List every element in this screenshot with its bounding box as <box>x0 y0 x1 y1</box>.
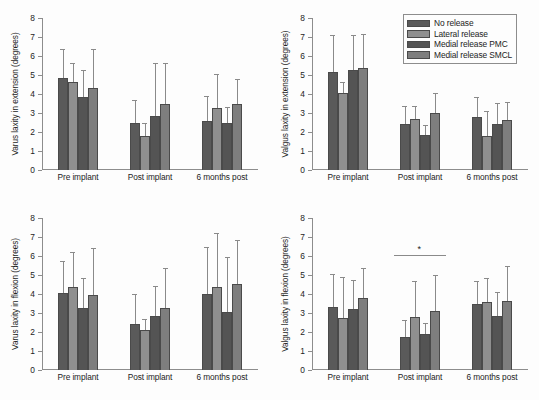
error-bar <box>135 100 136 124</box>
error-bar-cap <box>433 275 438 276</box>
bar <box>78 308 88 370</box>
y-axis-tick: 3 <box>38 313 42 314</box>
y-axis-tick-label: 0 <box>300 364 305 376</box>
error-bar-cap <box>330 274 335 275</box>
error-bar <box>507 266 508 301</box>
legend-item[interactable]: Lateral release <box>407 29 512 40</box>
bar <box>492 316 502 370</box>
figure-panel-grid: Varus laxity in extension (degrees)01234… <box>0 0 539 400</box>
y-axis-tick: 1 <box>308 151 312 152</box>
error-bar-cap <box>235 79 240 80</box>
error-bar-cap <box>81 70 86 71</box>
y-axis-tick: 3 <box>308 313 312 314</box>
error-bar-cap <box>423 323 428 324</box>
y-axis-tick: 8 <box>308 218 312 219</box>
bar <box>502 301 512 370</box>
y-axis-label: Varus laxity in extension (degrees) <box>10 10 24 178</box>
y-axis-tick-label: 8 <box>300 12 305 24</box>
y-axis-tick: 0 <box>38 170 42 171</box>
error-bar <box>353 35 354 70</box>
error-bar <box>135 294 136 323</box>
bar <box>502 120 512 170</box>
y-axis-tick-label: 1 <box>300 345 305 357</box>
legend: No releaseLateral releaseMedial release … <box>403 14 517 64</box>
legend-color-swatch <box>407 51 430 59</box>
x-axis-tick-label: Pre implant <box>42 372 114 382</box>
y-axis-tick-label: 5 <box>30 269 35 281</box>
error-bar-cap <box>70 63 75 64</box>
error-bar-cap <box>204 96 209 97</box>
bar <box>140 330 150 370</box>
bar <box>348 309 358 370</box>
error-bar-cap <box>474 281 479 282</box>
error-bar <box>405 106 406 123</box>
y-axis-tick-label: 4 <box>30 288 35 300</box>
error-bar-cap <box>60 261 65 262</box>
error-bar-cap <box>412 281 417 282</box>
y-axis-line <box>312 218 313 370</box>
y-axis-tick-label: 1 <box>300 145 305 157</box>
bar <box>140 136 150 170</box>
y-axis-tick-label: 4 <box>30 88 35 100</box>
y-axis-tick: 7 <box>308 37 312 38</box>
bar <box>410 317 420 370</box>
y-axis-tick: 8 <box>308 18 312 19</box>
bar <box>430 311 440 370</box>
error-bar <box>237 79 238 104</box>
error-bar-cap <box>351 35 356 36</box>
error-bar-cap <box>214 74 219 75</box>
legend-item[interactable]: No release <box>407 18 512 29</box>
bar <box>328 307 338 370</box>
y-axis-tick-label: 2 <box>30 326 35 338</box>
error-bar <box>477 97 478 118</box>
bar <box>202 294 212 370</box>
error-bar <box>237 240 238 284</box>
legend-item[interactable]: Medial release SMCL <box>407 50 512 61</box>
y-axis-label: Valgus laxity in flexion (degrees) <box>280 210 294 378</box>
y-axis-tick: 7 <box>38 237 42 238</box>
y-axis-tick: 8 <box>38 18 42 19</box>
plot-area: 012345678Pre implantPost implant6 months… <box>312 218 528 370</box>
x-axis-tick-label: Pre implant <box>312 172 384 182</box>
error-bar-cap <box>340 82 345 83</box>
y-axis-tick-label: 4 <box>300 88 305 100</box>
bar <box>328 72 338 170</box>
error-bar-cap <box>163 268 168 269</box>
x-axis-tick-label: 6 months post <box>186 172 258 182</box>
error-bar-cap <box>132 100 137 101</box>
error-bar-cap <box>505 266 510 267</box>
y-axis-tick: 5 <box>38 275 42 276</box>
error-bar <box>227 107 228 123</box>
x-axis-tick-label: 6 months post <box>456 372 528 382</box>
error-bar <box>73 63 74 82</box>
error-bar <box>343 82 344 93</box>
y-axis-tick-label: 0 <box>30 164 35 176</box>
y-axis-tick: 1 <box>308 351 312 352</box>
y-axis-tick: 0 <box>308 170 312 171</box>
y-axis-tick-label: 3 <box>30 307 35 319</box>
bar <box>472 117 482 170</box>
y-axis-line <box>312 18 313 170</box>
bar <box>420 334 430 370</box>
error-bar <box>155 286 156 316</box>
bar <box>400 124 410 170</box>
y-axis-tick: 4 <box>38 294 42 295</box>
y-axis-tick-label: 8 <box>30 12 35 24</box>
error-bar-cap <box>142 319 147 320</box>
y-axis-label: Valgus laxity in extension (degrees) <box>280 10 294 178</box>
y-axis-tick: 6 <box>308 56 312 57</box>
y-axis-tick-label: 3 <box>300 307 305 319</box>
x-axis-tick-label: Post implant <box>384 372 456 382</box>
y-axis-tick-label: 2 <box>30 126 35 138</box>
error-bar <box>435 275 436 311</box>
error-bar-cap <box>132 294 137 295</box>
y-axis-tick-label: 4 <box>300 288 305 300</box>
y-axis-tick-label: 7 <box>300 31 305 43</box>
bar <box>88 295 98 370</box>
legend-item[interactable]: Medial release PMC <box>407 39 512 50</box>
error-bar-cap <box>142 123 147 124</box>
error-bar <box>155 63 156 116</box>
error-bar <box>487 278 488 302</box>
y-axis-tick: 4 <box>308 294 312 295</box>
bar <box>348 70 358 170</box>
